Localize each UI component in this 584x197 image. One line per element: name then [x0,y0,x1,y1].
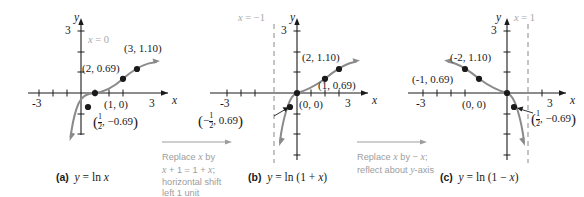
asymptote-label-x0: x = 0 [88,35,109,46]
x-tick-label-neg3: -3 [416,98,426,110]
point-label-neghalf-069: (−12, 0.69) [198,112,243,130]
x-axis-arrowhead [161,90,168,95]
curve-arrowhead-lower [70,132,76,141]
data-point [462,66,468,72]
x-axis-label: x [172,95,177,107]
y-axis-arrowhead [78,18,83,25]
caption-b-tag: (b) [248,171,261,183]
y-tick-label-3: 3 [281,25,287,37]
y-axis-label: y [74,12,79,24]
x-tick-label-3: 3 [149,98,155,110]
data-point [511,104,517,110]
point-label-1-069: (1, 0.69) [318,80,356,91]
y-axis-arrowhead [504,18,509,25]
point-label-1-0: (1, 0) [104,99,128,110]
point-label-neg2-110: (-2, 1.10) [450,52,491,63]
point-label-0-0: (0, 0) [462,99,486,110]
point-label-2-110: (2, 1.10) [302,52,340,63]
data-point [92,90,98,96]
logarithm-transformation-figure: y x 3 -3 3 x = 0 (3, 1.10) (2, 0.69) (1,… [0,0,584,197]
x-tick-label-neg3: -3 [32,98,42,110]
asymptote-label-xneg1: x = −1 [238,13,265,24]
asymptote-label-x1: x = 1 [514,13,535,24]
y-axis-arrowhead [294,18,299,25]
x-tick-label-3: 3 [547,98,553,110]
panel-c: y x 3 -3 3 x = 1 (-2, 1.10) (-1, 0.69) (… [390,0,584,197]
point-label-half-neg069: (12, −0.69) [531,110,576,128]
curve-arrowhead-lower [519,137,525,146]
y-axis-label: y [290,12,295,24]
caption-a-tag: (a) [56,171,69,183]
curve-arrowhead-lower [279,137,285,146]
caption-c-tag: (c) [440,171,453,183]
label-leader-arrowhead [283,107,289,112]
caption-b: (b) y = ln (1 + x) [248,172,327,184]
data-point [476,76,482,82]
x-axis-arrowhead [361,90,368,95]
x-tick-label-neg3: -3 [220,98,230,110]
caption-a: (a) y = ln x [56,172,109,184]
data-point [294,90,300,96]
log-curve [448,62,524,143]
data-point [336,66,342,72]
x-axis-label: x [372,95,377,107]
x-axis-arrowhead [559,90,566,95]
data-point [287,104,293,110]
point-label-half-neg069: (12, −0.69) [93,113,138,131]
point-label-neg1-069: (-1, 0.69) [412,74,453,85]
caption-c: (c) y = ln (1 − x) [440,172,519,184]
point-label-2-069: (2, 0.69) [82,63,120,74]
data-point [85,104,91,110]
y-axis-label: y [496,12,501,24]
y-tick-label-3: 3 [65,25,71,37]
x-tick-label-3: 3 [345,98,351,110]
x-axis-label: x [570,95,575,107]
y-tick-label-3: 3 [491,25,497,37]
data-point [504,90,510,96]
data-point [120,76,126,82]
data-point [134,66,140,72]
point-label-3-110: (3, 1.10) [124,43,162,54]
point-label-0-0: (0, 0) [299,99,323,110]
